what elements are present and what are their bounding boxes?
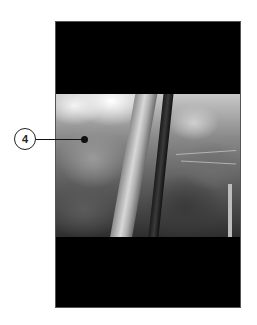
tree-trunk-thin: [228, 184, 232, 237]
branch: [176, 150, 236, 155]
callout-leader-line: [36, 139, 84, 140]
callout-number-4: 4: [14, 128, 36, 150]
forest-photo: [56, 94, 240, 237]
device-screen: [55, 21, 241, 308]
branch: [181, 161, 236, 165]
callout-anchor-dot: [81, 136, 88, 143]
